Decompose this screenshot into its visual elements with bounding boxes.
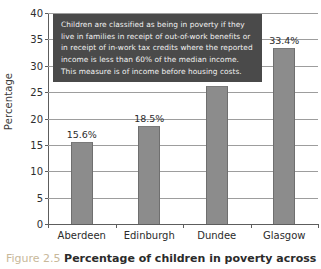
figure-caption-text: Percentage of children in poverty across… (64, 252, 318, 265)
bar-value-label: 18.5% (134, 113, 164, 124)
x-category-label: Dundee (183, 230, 251, 241)
bar[interactable] (273, 48, 295, 224)
figure-number: Figure 2.5 (6, 252, 61, 265)
x-tick-mark (318, 224, 319, 228)
x-tick-mark (183, 224, 184, 228)
y-tick-label: 20 (30, 113, 43, 124)
y-tick-label: 30 (30, 60, 43, 71)
bar[interactable] (206, 86, 228, 224)
y-tick-label: 35 (30, 34, 43, 45)
bar-chart: Percentage 0510152025303540 15.6%18.5%26… (0, 0, 321, 250)
x-tick-mark (48, 224, 49, 228)
x-category-label: Glasgow (251, 230, 319, 241)
y-tick-label: 0 (37, 219, 43, 230)
bar[interactable] (138, 126, 160, 224)
bar-value-label: 15.6% (67, 129, 97, 140)
bar[interactable] (71, 142, 93, 224)
x-category-label: Aberdeen (48, 230, 116, 241)
x-tick-mark (251, 224, 252, 228)
x-category-label: Edinburgh (116, 230, 184, 241)
bar-value-label: 33.4% (269, 35, 299, 46)
y-tick-label: 15 (30, 139, 43, 150)
y-tick-label: 5 (37, 192, 43, 203)
figure-container: Percentage 0510152025303540 15.6%18.5%26… (0, 0, 321, 269)
figure-caption: Figure 2.5 Percentage of children in pov… (6, 252, 318, 266)
y-tick-label: 10 (30, 166, 43, 177)
definition-annotation-box: Children are classified as being in pove… (53, 14, 262, 82)
y-tick-label: 40 (30, 8, 43, 19)
y-axis-title: Percentage (3, 60, 14, 144)
y-tick-label: 25 (30, 87, 43, 98)
x-tick-mark (116, 224, 117, 228)
x-axis: AberdeenEdinburghDundeeGlasgow (48, 224, 318, 250)
